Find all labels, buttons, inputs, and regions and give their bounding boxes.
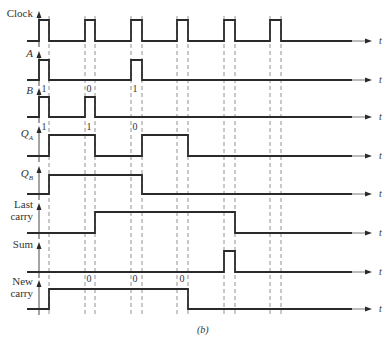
signal-label-a: A — [25, 47, 33, 59]
y-axis-arrow-icon — [37, 280, 42, 287]
signal-qb: QBt — [21, 166, 382, 200]
time-axis-arrow-icon — [365, 154, 372, 159]
bit-value-label: 0 — [180, 273, 185, 284]
bit-value-label: 1 — [42, 83, 47, 94]
y-axis-arrow-icon — [37, 203, 42, 210]
bit-value-label: 0 — [87, 83, 92, 94]
signal-b: Bt110 — [26, 84, 382, 132]
signal-label-clock: Clock — [7, 7, 34, 19]
waveform-sum — [27, 251, 352, 272]
bit-value-label: 0 — [87, 273, 92, 284]
bit-value-label: 1 — [133, 83, 138, 94]
waveform-last-carry — [27, 212, 352, 233]
signal-label-sum: Sum — [13, 238, 34, 250]
timing-diagram: ClocktAt101Bt110QAtQBtLastcarrytSumt000N… — [0, 0, 392, 338]
time-axis-label: t — [379, 227, 382, 238]
waveform-qb — [27, 175, 352, 194]
time-axis-arrow-icon — [365, 307, 372, 312]
waveform-clock — [27, 20, 352, 41]
signal-sum: Sumt000 — [13, 238, 382, 284]
signal-clock: Clockt — [7, 7, 382, 47]
waveform-new-carry — [27, 289, 352, 309]
time-axis-arrow-icon — [365, 192, 372, 197]
timing-diagram-svg: ClocktAt101Bt110QAtQBtLastcarrytSumt000N… — [0, 0, 392, 338]
time-axis-label: t — [379, 111, 382, 122]
signal-label-b: B — [26, 84, 33, 96]
bit-value-label: 0 — [133, 273, 138, 284]
bit-value-label: 1 — [87, 121, 92, 132]
clock-edge-guides — [49, 16, 281, 316]
time-axis-label: t — [379, 35, 382, 46]
signal-label-qa: QA — [21, 127, 34, 142]
waveform-qa — [27, 135, 352, 156]
signal-new-carry: Newcarryt — [10, 275, 382, 315]
bit-value-label: 1 — [42, 121, 47, 132]
signal-traces: ClocktAt101Bt110QAtQBtLastcarrytSumt000N… — [7, 7, 382, 315]
time-axis-arrow-icon — [365, 39, 372, 44]
waveform-b — [27, 97, 352, 117]
time-axis-arrow-icon — [365, 78, 372, 83]
signal-last-carry: Lastcarryt — [10, 198, 382, 239]
y-axis-arrow-icon — [37, 242, 42, 249]
time-axis-label: t — [379, 188, 382, 199]
time-axis-arrow-icon — [365, 270, 372, 275]
signal-a: At101 — [25, 47, 382, 94]
signal-label-last-carry: Lastcarry — [10, 198, 33, 222]
time-axis-label: t — [379, 266, 382, 277]
waveform-a — [27, 60, 352, 80]
figure-caption: (b) — [197, 324, 209, 336]
time-axis-arrow-icon — [365, 115, 372, 120]
time-axis-arrow-icon — [365, 231, 372, 236]
signal-qa: QAt — [21, 126, 382, 162]
y-axis-arrow-icon — [37, 11, 42, 18]
time-axis-label: t — [379, 74, 382, 85]
signal-label-new-carry: Newcarry — [10, 275, 33, 299]
time-axis-label: t — [379, 150, 382, 161]
bit-value-label: 0 — [133, 121, 138, 132]
y-axis-arrow-icon — [37, 51, 42, 58]
signal-label-qb: QB — [21, 167, 34, 182]
y-axis-arrow-icon — [37, 166, 42, 173]
time-axis-label: t — [379, 303, 382, 314]
